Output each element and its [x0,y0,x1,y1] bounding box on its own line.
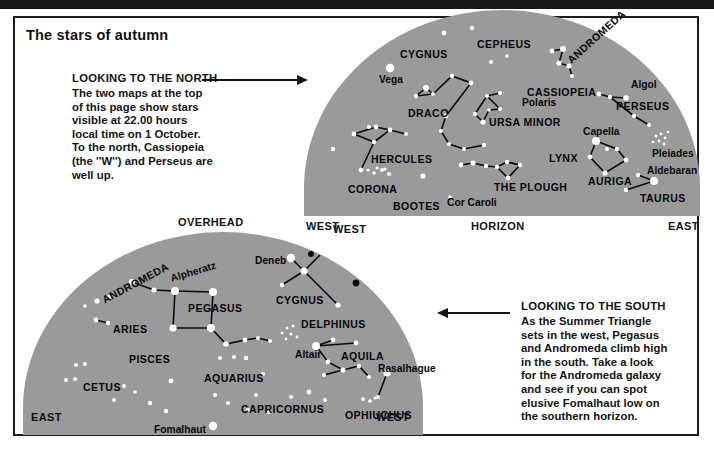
arrow-north-line [202,79,300,81]
direction-label-north-horizon: HORIZON [471,220,525,232]
star-point [340,367,345,372]
south-label-pegasus: PEGASUS [188,303,243,314]
north-label-taurus: TAURUS [640,193,686,204]
star-point [588,155,593,160]
star-point [169,379,174,384]
star-point [169,324,176,331]
star-point [450,74,454,78]
direction-label-south-west-top: WEST [333,223,366,235]
star-point [431,92,435,96]
star-point [323,398,327,402]
star-point [650,177,658,185]
star-point [624,188,628,192]
star-point [372,140,376,144]
south-label-aquarius: AQUARIUS [204,373,264,384]
star-point [387,172,391,176]
star-point [73,377,77,381]
star-point [498,107,502,111]
star-chart-page: The stars of autumn LOOKING TO THE NORTH… [0,0,714,449]
caption-south-line-3: and Andromeda climb high [521,342,711,356]
top-rule [0,0,714,9]
star-point [268,339,272,343]
north-label-polaris: Polaris [522,98,556,108]
sky-map-south: DenebAlpheratzANDROMEDAPEGASUSCYGNUSDELP… [23,240,423,435]
north-label-pleiades: Pleiades [652,149,694,159]
north-label-algol: Algol [631,80,657,90]
north-label-auriga: AURIGA [588,176,632,187]
caption-south-line-1: As the Summer Triangle [521,315,711,329]
star-point [647,123,651,127]
star-point [354,341,359,346]
star-point [459,163,464,168]
caption-south-line-5: for the Andromeda galaxy [521,369,711,383]
north-label-cygnus: CYGNUS [400,49,448,60]
star-point [487,108,491,112]
star-point [376,395,380,399]
north-label-hercules: HERCULES [371,154,432,165]
star-point [484,164,488,168]
direction-label-south-west-bot: WEST [376,411,409,423]
star-point [367,125,371,129]
outside-dot-1 [308,251,314,257]
north-label-lynx: LYNX [549,153,578,164]
caption-south-line-7: elusive Fomalhaut low on [521,397,711,411]
star-point [112,398,116,402]
direction-label-north-east: EAST [668,220,699,232]
star-point [357,364,361,368]
star-point [164,409,168,413]
star-point [423,85,429,91]
star-point [505,54,509,58]
star-point [209,288,217,296]
caption-south-heading: LOOKING TO THE SOUTH [521,300,711,312]
star-point [207,324,215,332]
north-label-ursa-minor: URSA MINOR [489,117,561,128]
star-point [470,160,475,165]
star-point [322,373,326,377]
star-point [256,336,260,340]
page-title: The stars of autumn [26,27,168,43]
star-point [254,393,258,397]
south-label-altair: Altair [295,350,321,360]
south-label-aquila: AQUILA [341,351,384,362]
star-point [439,129,443,133]
star-point [232,355,236,359]
star-point [359,168,364,173]
star-point [404,132,408,136]
star-point [414,94,418,98]
star-point [518,163,522,167]
star-point [386,64,394,72]
star-point [632,114,636,118]
star-point [374,125,379,130]
north-label-cor-caroli: Cor Caroli [447,198,497,208]
star-point [280,283,284,287]
star-point [615,147,619,151]
caption-south-body: As the Summer Triangle sets in the west,… [521,315,711,424]
south-label-cygnus: CYGNUS [276,295,324,306]
south-label-cetus: CETUS [83,382,121,393]
caption-north-line-5: To the north, Cassiopeia [72,141,282,155]
south-sky-dome [23,232,423,435]
arrow-south-head-icon [437,308,448,318]
star-point [331,147,335,151]
caption-north-line-6: (the ''W'') and Perseus are [72,155,282,169]
north-label-cassiopeia: CASSIOPEIA [527,87,596,98]
star-point [624,158,629,163]
star-point [64,378,68,382]
star-point [473,112,477,116]
star-point [470,26,474,30]
outside-dot-2 [353,280,360,287]
star-point [209,422,217,430]
star-point [148,401,152,405]
caption-north-line-4: local time on 1 October. [72,128,282,142]
star-point [442,31,447,36]
sky-map-north: CYGNUSCEPHEUSANDROMEDACASSIOPEIAVegaDRAC… [304,18,700,216]
star-point [352,132,357,137]
star-point [608,95,612,99]
star-point [243,338,248,343]
south-label-capricornus: CAPRICORNUS [241,404,324,415]
star-point [447,142,451,146]
north-label-aldebaran: Aldebaran [647,166,697,176]
star-point [505,160,509,164]
star-point [218,356,222,360]
north-label-perseus: PERSEUS [616,101,669,112]
